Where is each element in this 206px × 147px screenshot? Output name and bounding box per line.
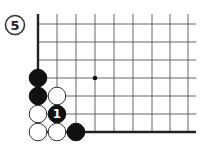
stone-body: [48, 123, 66, 141]
stone-body: [29, 87, 47, 105]
diagram-number-badge: 5: [6, 16, 25, 35]
star-points: [93, 76, 98, 81]
white-stone: [29, 105, 47, 123]
black-stone: [29, 69, 47, 87]
go-board-diagram: 5 1: [0, 0, 206, 147]
black-stone: [67, 123, 85, 141]
black-stone: [29, 87, 47, 105]
stone-body: [48, 87, 66, 105]
stone-body: [29, 123, 47, 141]
white-stone: [29, 123, 47, 141]
move-number: 1: [53, 107, 61, 121]
stone-body: [29, 105, 47, 123]
star-point: [93, 76, 98, 81]
diagram-number: 5: [10, 18, 19, 33]
stone-body: [29, 69, 47, 87]
black-stone: 1: [48, 105, 66, 123]
white-stone: [48, 123, 66, 141]
white-stone: [48, 87, 66, 105]
stone-body: [67, 123, 85, 141]
